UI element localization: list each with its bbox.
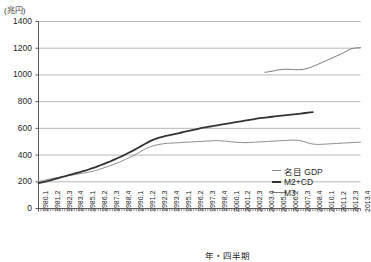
- legend-label: M3: [284, 188, 296, 198]
- legend-label: M2+CD: [284, 177, 313, 187]
- legend-swatch-m3-icon: [272, 192, 281, 193]
- legend-item-gdp[interactable]: 名目 GDP: [272, 165, 323, 176]
- legend-swatch-gdp-icon: [272, 170, 281, 171]
- series-line-M3: [265, 48, 360, 73]
- legend-item-m2cd[interactable]: M2+CD: [272, 176, 323, 187]
- chart-legend: 名目 GDPM2+CDM3: [272, 165, 323, 198]
- x-axis-title: 年・四半期: [205, 249, 250, 261]
- legend-item-m3[interactable]: M3: [272, 187, 323, 198]
- legend-label: 名目 GDP: [284, 165, 323, 177]
- legend-swatch-m2cd-icon: [272, 181, 281, 183]
